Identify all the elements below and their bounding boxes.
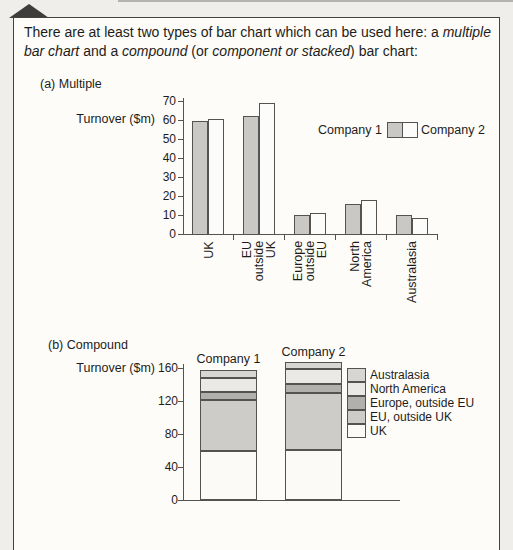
intro-text: ) bar chart: — [350, 43, 418, 59]
intro-text: and a — [79, 43, 122, 59]
intro-text: (or — [187, 43, 212, 59]
intro-paragraph: There are at least two types of bar char… — [24, 23, 492, 61]
intro-emphasis-text: compound — [122, 43, 187, 59]
page-corner-marker-icon — [9, 4, 49, 18]
content-panel — [13, 17, 500, 550]
top-rule — [118, 0, 513, 2]
intro-text: There are at least two types of bar char… — [24, 24, 443, 40]
intro-emphasis-text: component or stacked — [212, 43, 350, 59]
textbook-page: There are at least two types of bar char… — [0, 0, 513, 550]
